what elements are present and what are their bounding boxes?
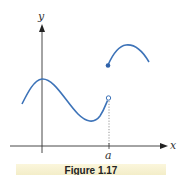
filled-dot-endpoint — [106, 63, 111, 68]
open-circle-endpoint — [106, 96, 110, 100]
curve-left-piece — [22, 79, 108, 121]
y-axis-arrow-icon — [39, 24, 45, 32]
function-graph — [0, 0, 182, 175]
x-axis-label: x — [170, 140, 176, 151]
curve-right-piece — [108, 45, 149, 65]
x-axis-arrow-icon — [160, 143, 168, 149]
y-axis-label: y — [38, 11, 44, 22]
figure-caption: Figure 1.17 — [0, 166, 182, 175]
tick-label-a: a — [105, 150, 112, 161]
